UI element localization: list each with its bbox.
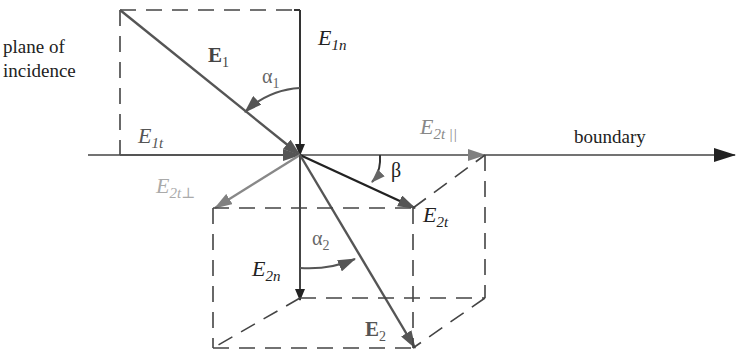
e1-label: E1 [208,43,229,70]
beta-arc [372,155,380,182]
field-boundary-diagram: plane of incidence boundary E1 E1n E1t α… [0,0,738,355]
e2t-perp-label: E2t⊥ [155,173,195,201]
e2t-perp-vector [215,155,300,208]
e2n-label: E2n [251,256,280,284]
e2t-parallel-label: E2t || [419,114,457,142]
e2-vector [300,155,415,348]
e2-label: E2 [365,317,386,344]
beta-label: β [391,159,401,182]
plane-of-incidence-label-line1: plane of [3,36,65,57]
plane-of-incidence-label-line2: incidence [3,60,76,81]
e2t-label: E2t [422,202,449,230]
alpha2-label: α2 [312,227,329,253]
e1n-label: E1n [317,25,346,53]
alpha2-arc [300,259,355,268]
boundary-label: boundary [574,126,646,147]
alpha1-label: α1 [262,65,279,91]
alpha1-arc [245,88,300,112]
e1t-label: E1t [137,123,164,151]
